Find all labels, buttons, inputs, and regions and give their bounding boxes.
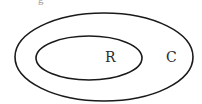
inner-set-r-ellipse — [36, 36, 142, 80]
cropped-caption-fragment: g — [38, 0, 44, 5]
label-r: R — [105, 49, 116, 65]
label-c: C — [166, 49, 177, 65]
nested-sets-diagram: g R C — [0, 0, 202, 104]
